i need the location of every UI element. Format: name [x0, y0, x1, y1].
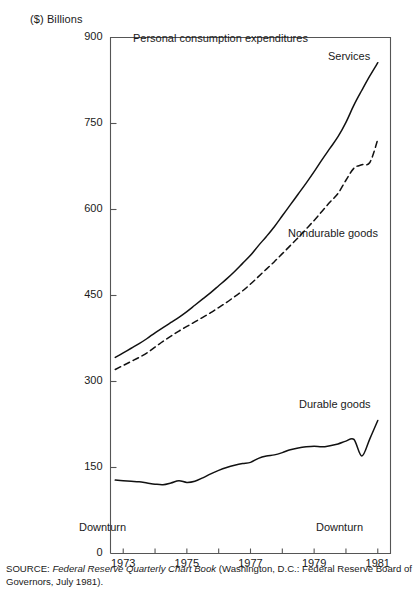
source-note: SOURCE: Federal Reserve Quarterly Chart … — [6, 563, 416, 588]
plot-title: Personal consumption expenditures — [133, 32, 308, 44]
y-axis-tick-label: 900 — [63, 30, 103, 42]
y-axis-tick-label: 300 — [63, 374, 103, 386]
y-axis-tick-label: 600 — [63, 202, 103, 214]
data-series-lines — [115, 63, 378, 485]
annotation-downturn-first: Downturn — [79, 521, 126, 533]
y-axis-tick-label: 750 — [63, 116, 103, 128]
y-axis-ticks — [111, 124, 117, 468]
source-title: Federal Reserve Quarterly Chart Book — [52, 563, 216, 574]
annotation-downturn-second: Downturn — [316, 521, 363, 533]
y-axis-unit-label: ($) Billions — [30, 13, 83, 25]
y-axis-tick-label: 150 — [63, 460, 103, 472]
x-axis-ticks — [123, 549, 378, 554]
plot-frame — [111, 38, 391, 554]
series-line-services — [115, 63, 378, 358]
series-line-durable-goods — [115, 420, 378, 484]
series-label-nondurable-goods: Nondurable goods — [288, 227, 378, 239]
series-line-nondurable-goods — [115, 140, 378, 370]
chart-figure: ($) Billions Personal consumption expend… — [0, 0, 420, 597]
y-axis-tick-label: 0 — [63, 546, 103, 558]
series-label-services: Services — [328, 50, 370, 62]
y-axis-tick-label: 450 — [63, 288, 103, 300]
source-prefix: SOURCE: — [6, 563, 52, 574]
series-label-durable-goods: Durable goods — [299, 398, 371, 410]
